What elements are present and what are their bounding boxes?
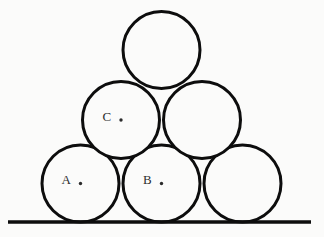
circle-pyramid-figure: ABC (0, 0, 324, 237)
circle-label-bottom-middle: B (143, 172, 152, 187)
diagram-canvas: ABC (0, 0, 324, 237)
circle-middle-right (164, 82, 241, 159)
center-dot-bottom-left (79, 182, 82, 185)
circle-label-bottom-left: A (62, 172, 72, 187)
circles-layer (42, 12, 281, 223)
center-dot-middle-left (119, 118, 122, 121)
circle-top (123, 12, 200, 89)
center-dot-bottom-middle (160, 182, 163, 185)
circle-label-middle-left: C (102, 109, 111, 124)
